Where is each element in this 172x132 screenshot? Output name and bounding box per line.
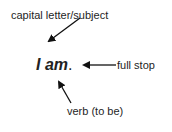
verb-arrow-icon — [59, 82, 71, 103]
subject-arrow-icon — [49, 18, 80, 41]
sentence-words: I am — [36, 56, 68, 73]
subject-label: capital letter/subject — [11, 9, 108, 21]
grammar-diagram: capital letter/subject I am. full stop v… — [0, 0, 172, 132]
verb-label: verb (to be) — [67, 105, 123, 117]
sentence-full-stop: . — [68, 56, 72, 73]
full-stop-label: full stop — [117, 59, 155, 71]
example-sentence: I am. — [36, 57, 72, 73]
